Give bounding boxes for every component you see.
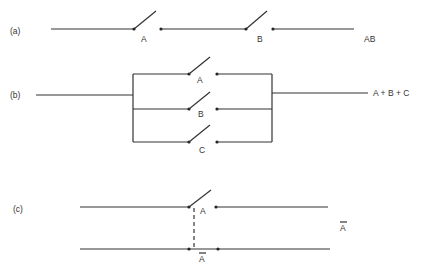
panel-c-output: A — [340, 223, 346, 233]
top-switch-blade — [189, 190, 211, 207]
panel-a-output: AB — [364, 34, 376, 44]
bottom-switch-pivot — [187, 247, 190, 250]
panel-a-label: (a) — [10, 26, 21, 36]
panel-a-series: (a) A B AB — [10, 11, 376, 44]
top-switch-label: A — [200, 206, 206, 216]
branch-c-label: C — [199, 145, 205, 155]
branch-c-blade — [189, 125, 210, 142]
panel-c-label: (c) — [13, 204, 23, 214]
diagram-canvas: (a) A B AB (b) A + B — [0, 0, 425, 277]
bottom-switch-contact — [216, 247, 219, 250]
panel-c-ganged: (c) A A A — [13, 190, 347, 264]
switch-a-label: A — [141, 34, 147, 44]
panel-b-label: (b) — [10, 90, 21, 100]
panel-b-parallel: (b) A + B + C A B — [10, 57, 409, 155]
branch-b-blade — [189, 92, 210, 109]
switching-logic-diagram: (a) A B AB (b) A + B — [0, 0, 425, 277]
branch-a-label: A — [197, 75, 203, 85]
switch-b-label: B — [257, 34, 263, 44]
branch-b-label: B — [198, 109, 204, 119]
switch-a-blade — [134, 11, 156, 29]
bottom-switch-label: A — [199, 254, 205, 264]
switch-b-blade — [246, 11, 267, 29]
panel-b-output: A + B + C — [373, 88, 409, 98]
branch-a-blade — [189, 57, 210, 74]
